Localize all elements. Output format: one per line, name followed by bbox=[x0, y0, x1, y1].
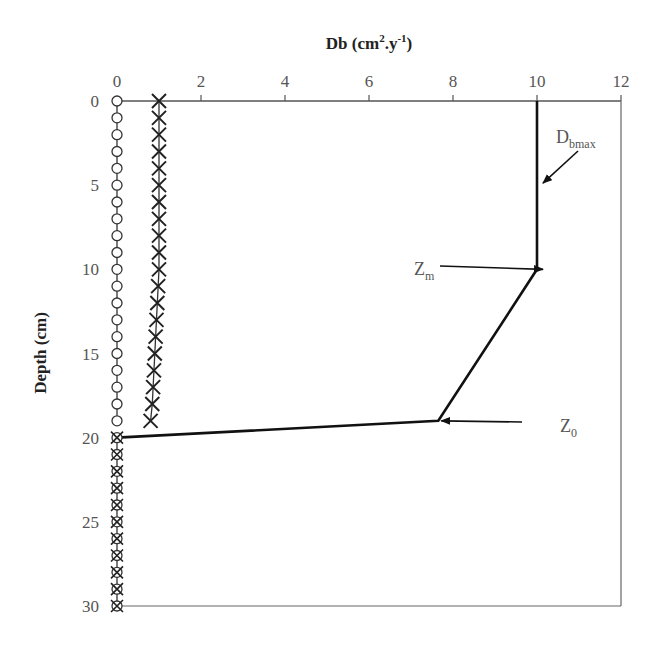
y-tick-label: 20 bbox=[82, 429, 99, 448]
circle-marker bbox=[112, 332, 122, 342]
annotation-arrow bbox=[543, 151, 578, 183]
circle-marker bbox=[112, 130, 122, 140]
circle-marker bbox=[112, 180, 122, 190]
y-tick-label: 15 bbox=[82, 345, 99, 364]
circle-marker bbox=[112, 147, 122, 157]
circle-marker bbox=[112, 248, 122, 258]
plot-axes: 024681012051015202530 bbox=[82, 72, 630, 616]
circle-marker bbox=[112, 264, 122, 274]
circle-marker bbox=[112, 382, 122, 392]
y-tick-label: 10 bbox=[82, 260, 99, 279]
x-tick-label: 0 bbox=[113, 72, 122, 91]
y-axis-title: Depth (cm) bbox=[31, 312, 50, 394]
x-tick-label: 6 bbox=[365, 72, 374, 91]
x-tick-label: 8 bbox=[449, 72, 458, 91]
circle-marker bbox=[112, 197, 122, 207]
circle-marker bbox=[112, 96, 122, 106]
circle-marker bbox=[112, 281, 122, 291]
annotation-arrow bbox=[440, 266, 543, 269]
circle-marker bbox=[112, 315, 122, 325]
series-layer bbox=[111, 94, 537, 612]
circle-marker bbox=[112, 365, 122, 375]
circle-marker bbox=[112, 349, 122, 359]
circle-marker bbox=[112, 163, 122, 173]
y-tick-label: 30 bbox=[82, 597, 99, 616]
x-tick-label: 12 bbox=[613, 72, 630, 91]
circle-marker bbox=[112, 113, 122, 123]
annotations: DbmaxZmZ0 bbox=[414, 127, 596, 440]
x-tick-label: 4 bbox=[281, 72, 290, 91]
profile-line bbox=[117, 101, 537, 438]
x-axis-title: Db (cm2.y-1) bbox=[326, 32, 412, 53]
y-tick-label: 5 bbox=[91, 176, 100, 195]
circle-marker bbox=[112, 399, 122, 409]
x-tick-label: 2 bbox=[197, 72, 206, 91]
annotation-label: Zm bbox=[414, 259, 435, 283]
circle-marker bbox=[112, 298, 122, 308]
annotation-label: Z0 bbox=[560, 416, 577, 440]
circle-marker bbox=[112, 214, 122, 224]
annotation-label: Dbmax bbox=[556, 127, 596, 151]
annotation-arrow bbox=[441, 421, 522, 422]
circle-marker bbox=[112, 231, 122, 241]
x-tick-label: 10 bbox=[529, 72, 546, 91]
y-tick-label: 25 bbox=[82, 513, 99, 532]
y-tick-label: 0 bbox=[91, 92, 100, 111]
circle-marker bbox=[112, 416, 122, 426]
depth-profile-chart: 024681012051015202530 DbmaxZmZ0 Db (cm2.… bbox=[0, 0, 660, 645]
